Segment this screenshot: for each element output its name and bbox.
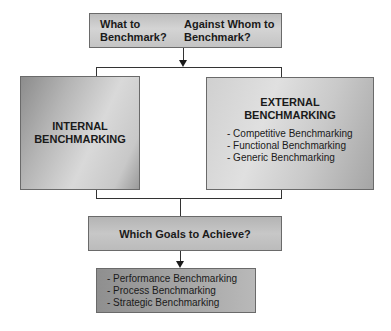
goals-box: Which Goals to Achieve?: [88, 216, 282, 251]
external-title: EXTERNAL BENCHMARKING: [207, 96, 373, 122]
against-whom-label: Against Whom to Benchmark?: [184, 18, 274, 44]
connector-bottom-stem: [180, 198, 181, 216]
question-1-line-2: Benchmark?: [100, 31, 167, 44]
connector-top-left-drop: [96, 67, 97, 76]
internal-benchmarking-box: INTERNAL BENCHMARKING: [20, 76, 140, 190]
external-title-line-1: EXTERNAL: [207, 96, 373, 109]
arrow-down-icon: [176, 261, 184, 268]
internal-title-line-2: BENCHMARKING: [34, 133, 126, 146]
list-item: - Performance Benchmarking: [107, 273, 237, 285]
goal-types-list: - Performance Benchmarking - Process Ben…: [107, 273, 237, 309]
arrow-down-icon: [179, 60, 187, 67]
connector-bottom-horizontal: [96, 198, 282, 199]
external-title-line-2: BENCHMARKING: [207, 109, 373, 122]
benchmarking-goals-box: - Performance Benchmarking - Process Ben…: [96, 268, 256, 313]
list-item: - Strategic Benchmarking: [107, 297, 237, 309]
external-benchmarking-box: EXTERNAL BENCHMARKING - Competitive Benc…: [206, 77, 374, 190]
question-2-line-2: Benchmark?: [184, 31, 274, 44]
connector-bottom-left-rise: [96, 190, 97, 198]
question-2-line-1: Against Whom to: [184, 18, 274, 31]
internal-title-line-1: INTERNAL: [34, 120, 126, 133]
external-types-list: - Competitive Benchmarking - Functional …: [227, 128, 353, 164]
goals-title: Which Goals to Achieve?: [119, 228, 251, 240]
connector-bottom-right-rise: [281, 190, 282, 198]
connector-top-right-drop: [281, 67, 282, 77]
internal-title: INTERNAL BENCHMARKING: [34, 120, 126, 146]
question-box: What to Benchmark? Against Whom to Bench…: [89, 13, 282, 48]
connector-top-horizontal: [96, 67, 282, 68]
question-1-line-1: What to: [100, 18, 167, 31]
list-item: - Functional Benchmarking: [227, 140, 353, 152]
what-to-benchmark-label: What to Benchmark?: [100, 18, 167, 44]
list-item: - Process Benchmarking: [107, 285, 237, 297]
list-item: - Generic Benchmarking: [227, 152, 353, 164]
list-item: - Competitive Benchmarking: [227, 128, 353, 140]
